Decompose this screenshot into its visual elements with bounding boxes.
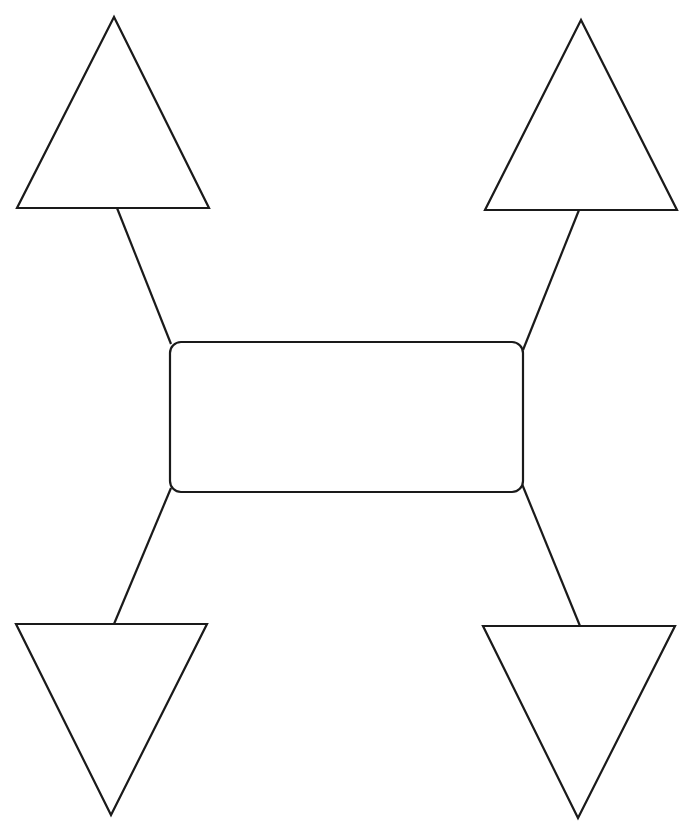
triangle-top-left bbox=[17, 17, 209, 208]
connector-top-right bbox=[523, 210, 579, 350]
connector-top-left bbox=[117, 208, 171, 344]
diagram-canvas bbox=[0, 0, 686, 835]
center-box bbox=[170, 342, 523, 492]
connector-bottom-left bbox=[114, 488, 171, 624]
triangle-top-right bbox=[485, 20, 677, 210]
triangle-bottom-left bbox=[16, 624, 207, 815]
triangle-bottom-right bbox=[483, 626, 675, 818]
connector-bottom-right bbox=[522, 484, 580, 626]
